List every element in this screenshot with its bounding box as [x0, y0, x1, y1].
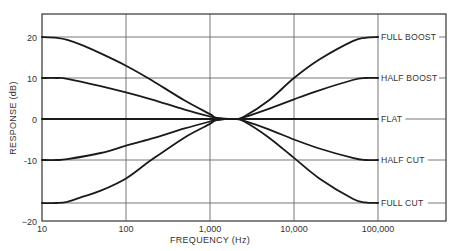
x-tick-label: 1,000 — [199, 224, 222, 234]
legend-label-flat: FLAT — [381, 114, 403, 124]
y-tick-label: 20 — [27, 33, 37, 43]
legend-label-full-boost: FULL BOOST — [381, 32, 437, 42]
eq-response-chart: 20100-10−20 101001,00010,000100,000 FULL… — [0, 0, 457, 251]
y-tick-label: 0 — [32, 115, 37, 125]
legend-label-half-boost: HALF BOOST — [381, 73, 438, 83]
legend-label-full-cut: FULL CUT — [381, 198, 424, 208]
x-tick-label: 10,000 — [280, 224, 308, 234]
y-tick-label: −20 — [22, 217, 37, 227]
x-axis-label: FREQUENCY (Hz) — [170, 235, 250, 245]
x-tick-label: 100,000 — [362, 224, 395, 234]
y-axis-label: RESPONSE (dB) — [8, 81, 18, 154]
y-axis-tick-labels: 20100-10−20 — [22, 33, 37, 227]
legend-label-half-cut: HALF CUT — [381, 155, 425, 165]
x-axis-tick-labels: 101001,00010,000100,000 — [37, 224, 394, 234]
y-tick-label: 10 — [27, 74, 37, 84]
curve-labels: FULL BOOSTHALF BOOSTFLATHALF CUTFULL CUT — [379, 31, 439, 209]
x-tick-label: 100 — [118, 224, 133, 234]
y-tick-label: -10 — [24, 156, 37, 166]
x-tick-label: 10 — [37, 224, 47, 234]
